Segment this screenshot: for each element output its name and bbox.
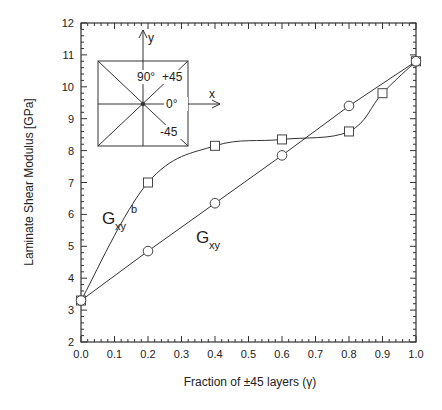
circle-marker-icon (411, 56, 421, 66)
x-tick-label: 0.1 (107, 348, 122, 360)
svg-text:b: b (131, 203, 137, 215)
y-tick-label: 5 (68, 240, 74, 252)
inset-plus45-label: +45 (162, 70, 183, 84)
x-tick-label: 0.8 (341, 348, 356, 360)
x-tick-label: 0.2 (140, 348, 155, 360)
svg-text:xy: xy (209, 239, 221, 251)
x-tick-label: 0.3 (174, 348, 189, 360)
x-tick-label: 0.7 (308, 348, 323, 360)
square-marker-icon (211, 141, 220, 150)
circle-marker-icon (210, 198, 220, 208)
y-tick-label: 10 (62, 81, 74, 93)
circle-marker-icon (76, 296, 86, 306)
circle-marker-icon (143, 246, 153, 256)
svg-text:xy: xy (115, 220, 127, 232)
y-tick-label: 9 (68, 113, 74, 125)
inset-x-label: x (209, 87, 215, 101)
svg-text:G: G (196, 228, 209, 247)
square-marker-icon (278, 135, 287, 144)
x-axis-title: Fraction of ±45 layers (γ) (184, 375, 317, 389)
circle-marker-icon (277, 151, 287, 161)
square-marker-icon (378, 89, 387, 98)
y-tick-label: 6 (68, 208, 74, 220)
y-tick-label: 2 (68, 336, 74, 348)
axis-ticks (81, 23, 416, 342)
x-tick-label: 0.6 (274, 348, 289, 360)
square-marker-icon (345, 127, 354, 136)
series-line-gxyb (81, 61, 416, 300)
chart: 0.00.10.20.30.40.50.60.70.80.91.02345678… (0, 0, 442, 410)
inset-minus45-label: -45 (160, 125, 178, 139)
series-lines (81, 61, 416, 300)
square-marker-icon (144, 178, 153, 187)
tick-labels: 0.00.10.20.30.40.50.60.70.80.91.02345678… (62, 17, 424, 360)
y-tick-label: 3 (68, 304, 74, 316)
circle-marker-icon (344, 101, 354, 111)
x-tick-label: 1.0 (408, 348, 423, 360)
x-tick-label: 0.0 (73, 348, 88, 360)
x-tick-label: 0.4 (207, 348, 222, 360)
series-label-gxyb: G xy b (102, 203, 137, 232)
series-label-gxy: G xy (196, 228, 221, 251)
y-tick-label: 7 (68, 177, 74, 189)
y-tick-label: 8 (68, 145, 74, 157)
y-axis-title: Laminate Shear Modulus [GPa] (22, 98, 36, 265)
x-tick-label: 0.5 (241, 348, 256, 360)
svg-text:G: G (102, 209, 115, 228)
inset-90-label: 90° (137, 70, 155, 84)
y-tick-label: 12 (62, 17, 74, 29)
x-tick-label: 0.9 (375, 348, 390, 360)
plot-frame (81, 23, 416, 342)
y-tick-label: 11 (63, 49, 74, 61)
inset-0-label: 0° (166, 97, 178, 111)
inset-y-label: y (148, 31, 154, 45)
y-tick-label: 4 (68, 272, 74, 284)
series-line-gxy (81, 61, 416, 300)
series-markers (76, 56, 421, 305)
